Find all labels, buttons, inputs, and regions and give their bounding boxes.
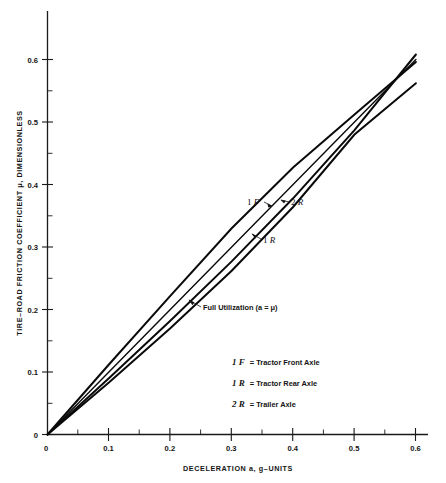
y-tick-label: 0.6 [27,56,38,65]
curve-label-1R: 1 R [263,235,276,245]
y-tick-label: 0.5 [27,118,38,127]
y-axis-title: TIRE–ROAD FRICTION COEFFICIENT μ, DIMENS… [15,110,24,335]
x-tick-label: 0.1 [103,444,114,453]
x-tick-label: 0.4 [287,444,298,453]
x-axis-title: DECELERATION a, g–UNITS [183,464,293,473]
x-tick-label: 0.2 [165,444,176,453]
friction-utilization-chart: 0 0.1 0.2 0.3 0.4 0.5 0.6 0 0.1 0.2 0.3 … [0,0,446,483]
y-axis-tick-labels: 0 0.1 0.2 0.3 0.4 0.5 0.6 [27,56,38,440]
x-tick-label: 0.3 [226,444,237,453]
x-tick-label: 0 [44,444,48,453]
curve-label-2R: 2 R [291,197,304,207]
y-tick-label: 0.1 [27,368,38,377]
legend-entry-text: Tractor Rear Axle [256,379,317,388]
y-tick-label: 0.4 [27,181,38,190]
legend-entry: 2 R = Trailer Axle [231,399,296,409]
legend-entry: 1 R = Tractor Rear Axle [232,378,317,388]
x-tick-label: 0.6 [410,444,421,453]
y-tick-label: 0 [34,431,38,440]
leader-2R-arrow [281,200,286,204]
figure-canvas: 0 0.1 0.2 0.3 0.4 0.5 0.6 0 0.1 0.2 0.3 … [0,0,446,483]
legend-entry: 1 F = Tractor Front Axle [232,357,320,367]
x-tick-label: 0.5 [349,444,360,453]
x-axis-tick-labels: 0 0.1 0.2 0.3 0.4 0.5 0.6 [44,444,421,453]
full-utilization-label: Full Utilization (a = μ) [203,303,278,312]
legend-entry-text: Tractor Front Axle [256,358,319,367]
y-tick-label: 0.2 [27,306,38,315]
y-tick-label: 0.3 [27,243,38,252]
curve-label-1F: 1 F [247,197,260,207]
legend-entry-text: Trailer Axle [256,400,296,409]
legend: 1 F = Tractor Front Axle 1 R = Tractor R… [231,357,320,409]
